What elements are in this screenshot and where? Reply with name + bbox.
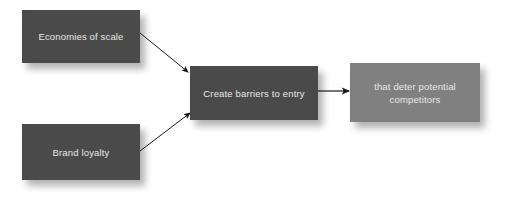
connector-brand-to-barriers [140, 113, 190, 151]
connector-economies-to-barriers [140, 33, 188, 72]
node-label-line-2: competitors [390, 94, 441, 105]
node-label: that deter potential competitors [356, 80, 474, 106]
node-label: Economies of scale [28, 30, 134, 43]
node-brand-loyalty[interactable]: Brand loyalty [22, 124, 140, 180]
node-label-line-1: that deter potential [374, 81, 456, 92]
node-label: Brand loyalty [28, 146, 134, 159]
node-create-barriers-to-entry[interactable]: Create barriers to entry [190, 66, 318, 120]
node-economies-of-scale[interactable]: Economies of scale [22, 10, 140, 63]
node-label: Create barriers to entry [196, 87, 312, 100]
diagram-canvas: Economies of scale Brand loyalty Create … [0, 0, 513, 207]
node-that-deter-potential-competitors[interactable]: that deter potential competitors [350, 63, 480, 122]
